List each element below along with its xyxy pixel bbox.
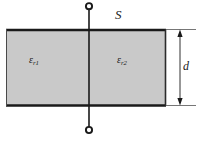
dielectric-right-subscript: r2 <box>121 59 127 66</box>
bottom-terminal-node-icon <box>86 127 92 133</box>
dielectric-block-fill <box>7 30 166 106</box>
dielectric-left-label: εr1 <box>29 55 39 65</box>
dielectric-right-label: εr2 <box>117 55 127 65</box>
capacitor-diagram: S εr1 εr2 d <box>0 0 197 143</box>
diagram-canvas <box>0 0 197 143</box>
area-label: S <box>115 8 122 21</box>
dimension-arrowhead-down-icon <box>177 98 182 106</box>
dielectric-left-subscript: r1 <box>33 59 39 66</box>
thickness-label: d <box>183 60 189 72</box>
dimension-arrowhead-up-icon <box>177 30 182 38</box>
top-terminal-node-icon <box>86 3 92 9</box>
